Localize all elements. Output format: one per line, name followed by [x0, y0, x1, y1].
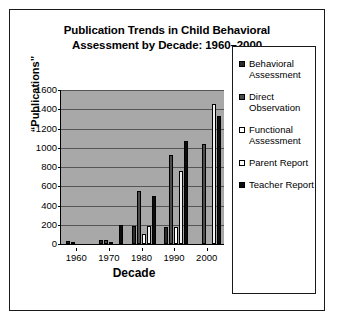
y-tick-1400: 1400 [24, 105, 57, 115]
legend-item-functional-assessment[interactable]: Functional Assessment [239, 124, 315, 146]
x-tick-mark-1970 [109, 248, 110, 251]
bar-1970-behavioral-assessment [99, 240, 103, 244]
bar-2000-direct-observation [202, 144, 206, 244]
bar-1960-behavioral-assessment [66, 241, 70, 244]
legend-label: Behavioral Assessment [249, 58, 301, 80]
legend-item-behavioral-assessment[interactable]: Behavioral Assessment [239, 58, 315, 80]
legend-swatch-icon [239, 94, 245, 100]
bar-1960-direct-observation [71, 242, 75, 244]
x-tick-1990: 1990 [157, 252, 191, 263]
legend-swatch-icon [239, 61, 245, 67]
bars-layer [61, 90, 224, 244]
legend-swatch-icon [239, 160, 245, 166]
bar-2000-parent-report [212, 104, 216, 244]
legend-item-teacher-report[interactable]: Teacher Report [239, 179, 315, 190]
bar-1980-teacher-report [152, 196, 156, 244]
bar-2000-teacher-report [217, 116, 221, 244]
bar-1970-teacher-report [119, 225, 123, 244]
x-tick-1960: 1960 [59, 252, 93, 263]
x-tick-1970: 1970 [92, 252, 126, 263]
legend-item-direct-observation[interactable]: Direct Observation [239, 91, 315, 113]
bar-1990-behavioral-assessment [164, 227, 168, 244]
legend-label: Direct Observation [249, 91, 300, 113]
x-tick-1980: 1980 [125, 252, 159, 263]
y-tick-800: 800 [24, 162, 57, 172]
bar-group-1960 [66, 90, 90, 244]
x-axis-label: Decade [44, 266, 224, 280]
bar-group-2000 [197, 90, 221, 244]
plot-area [60, 90, 224, 245]
figure-frame: Publication Trends in Child Behavioral A… [9, 9, 325, 311]
y-tick-0: 0 [24, 239, 57, 249]
bar-1990-teacher-report [184, 141, 188, 244]
x-tick-mark-1960 [76, 248, 77, 251]
y-tick-1000: 1000 [24, 143, 57, 153]
bar-1980-parent-report [147, 226, 151, 244]
chart-legend: Behavioral AssessmentDirect ObservationF… [232, 46, 316, 294]
x-axis-tick-labels: 19601970198019902000 [60, 248, 223, 260]
bar-1970-direct-observation [104, 240, 108, 244]
x-tick-mark-1980 [142, 248, 143, 251]
x-tick-2000: 2000 [190, 252, 224, 263]
bar-1990-direct-observation [169, 155, 173, 245]
bar-1970-functional-assessment [109, 242, 113, 244]
y-tick-200: 200 [24, 220, 57, 230]
bar-1980-direct-observation [137, 191, 141, 244]
y-tick-1200: 1200 [24, 124, 57, 134]
bar-1990-functional-assessment [174, 227, 178, 244]
legend-label: Functional Assessment [249, 124, 301, 146]
bar-1980-behavioral-assessment [132, 226, 136, 244]
legend-label: Parent Report [249, 157, 308, 168]
y-tick-1600: 1600 [24, 85, 57, 95]
y-tick-400: 400 [24, 201, 57, 211]
y-tick-mark-0 [58, 244, 61, 245]
bar-1980-functional-assessment [142, 234, 146, 244]
legend-label: Teacher Report [249, 179, 314, 190]
legend-item-parent-report[interactable]: Parent Report [239, 157, 315, 168]
y-axis-tick-labels: 02004006008001000120014001600 [24, 90, 57, 244]
x-tick-mark-1990 [174, 248, 175, 251]
x-tick-mark-2000 [207, 248, 208, 251]
bar-1990-parent-report [179, 171, 183, 244]
legend-swatch-icon [239, 127, 245, 133]
bar-group-1970 [99, 90, 123, 244]
bar-group-1990 [164, 90, 188, 244]
bar-group-1980 [132, 90, 156, 244]
legend-swatch-icon [239, 182, 245, 188]
y-tick-600: 600 [24, 182, 57, 192]
